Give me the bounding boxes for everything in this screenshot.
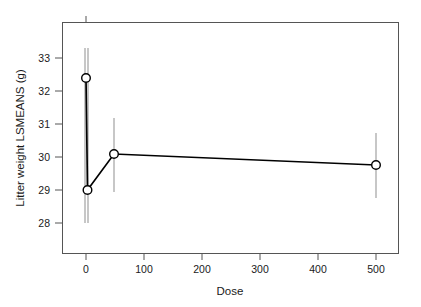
y-tick-label-29: 29 xyxy=(38,184,50,196)
y-tick-label-30: 30 xyxy=(38,151,50,163)
x-tick-label-0: 0 xyxy=(83,263,89,275)
data-point-dose-500 xyxy=(372,161,381,170)
y-tick-label-32: 32 xyxy=(38,85,50,97)
data-point-dose-3 xyxy=(83,186,92,195)
x-tick-label-400: 400 xyxy=(309,263,327,275)
y-tick-label-31: 31 xyxy=(38,118,50,130)
x-tick-label-100: 100 xyxy=(135,263,153,275)
data-point-dose-50 xyxy=(110,150,119,159)
x-tick-label-500: 500 xyxy=(367,263,385,275)
y-tick-label-33: 33 xyxy=(38,52,50,64)
x-tick-label-200: 200 xyxy=(193,263,211,275)
y-axis-title: Litter weight LSMEANS (g) xyxy=(14,69,26,207)
plot-background xyxy=(0,0,421,307)
x-axis-title: Dose xyxy=(217,285,244,297)
x-tick-label-300: 300 xyxy=(251,263,269,275)
data-point-dose-0 xyxy=(82,74,91,83)
litter-weight-dose-plot: 33 32 31 30 29 28 0 100 200 300 400 500 xyxy=(0,0,421,307)
y-tick-label-28: 28 xyxy=(38,217,50,229)
chart-screenshot: 33 32 31 30 29 28 0 100 200 300 400 500 xyxy=(0,0,421,307)
